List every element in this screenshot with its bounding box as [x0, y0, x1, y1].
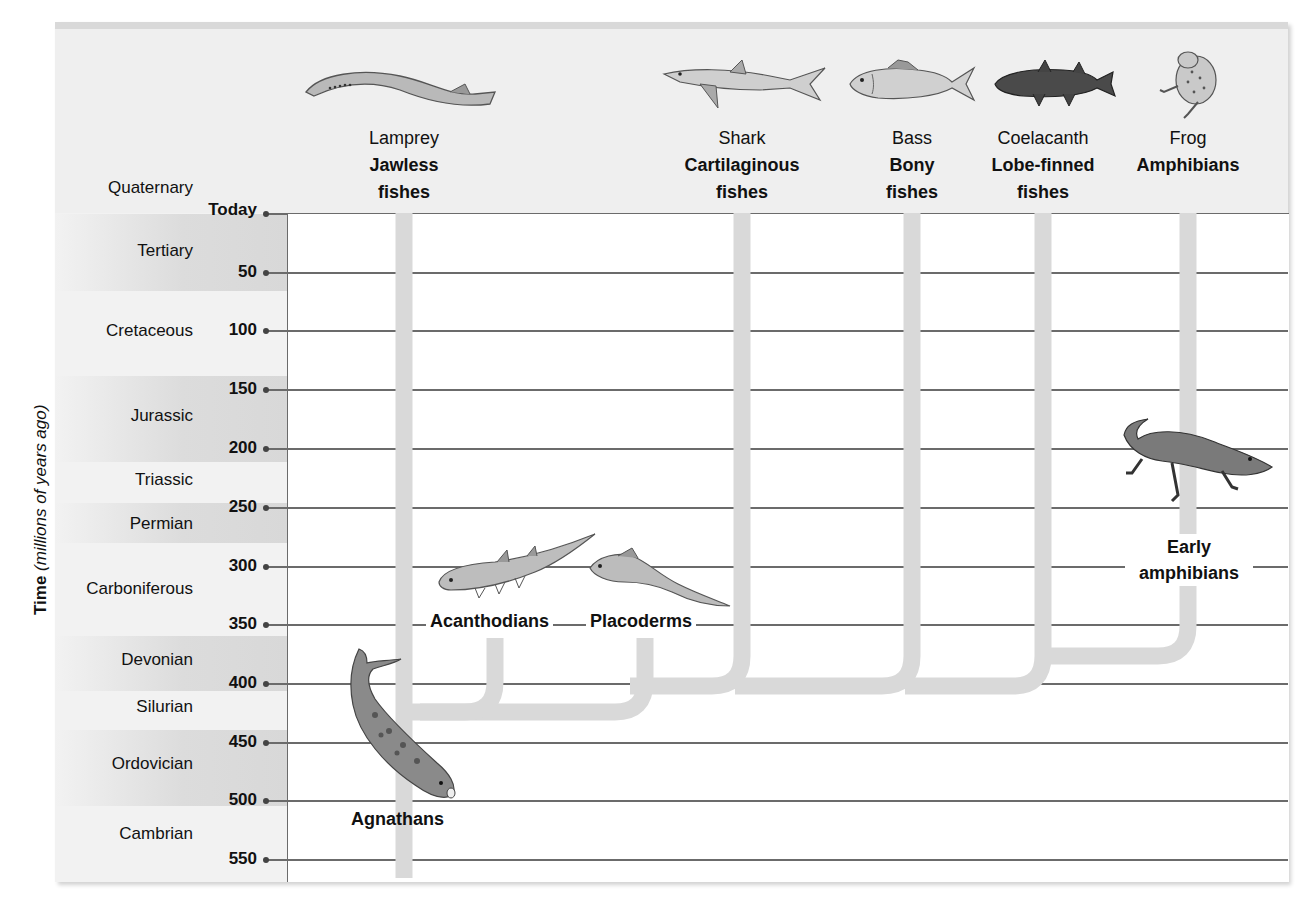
- label-acanthodians: Acanthodians: [426, 608, 553, 634]
- taxon-group-name: fishes: [652, 179, 832, 206]
- taxon-group-name: Lobe-finned: [973, 152, 1113, 179]
- taxon-group-name: fishes: [852, 179, 972, 206]
- placoderm-icon: [588, 548, 733, 610]
- taxon-group-name: Bony: [852, 152, 972, 179]
- taxon-shark: Shark Cartilaginous fishes: [652, 125, 832, 206]
- bass-icon: [848, 60, 978, 110]
- frog-icon: [1158, 48, 1228, 120]
- taxon-group-name: Cartilaginous: [652, 152, 832, 179]
- label-early-amphibians: Early amphibians: [1125, 534, 1253, 586]
- acanthodian-icon: [435, 532, 600, 602]
- taxon-common-name: Coelacanth: [973, 125, 1113, 152]
- label-early-amphibians-line1: Early: [1129, 534, 1249, 560]
- shark-icon: [660, 60, 830, 115]
- taxon-group-name: Jawless: [324, 152, 484, 179]
- label-early-amphibians-line2: amphibians: [1129, 560, 1249, 586]
- taxon-bass: Bass Bony fishes: [852, 125, 972, 206]
- taxon-common-name: Frog: [1118, 125, 1258, 152]
- lamprey-icon: [300, 62, 500, 112]
- label-agnathans: Agnathans: [347, 806, 448, 832]
- taxon-group-name: fishes: [324, 179, 484, 206]
- taxon-group-name: Amphibians: [1118, 152, 1258, 179]
- taxon-frog: Frog Amphibians: [1118, 125, 1258, 179]
- taxon-coelacanth: Coelacanth Lobe-finned fishes: [973, 125, 1113, 206]
- coelacanth-icon: [993, 58, 1118, 108]
- taxon-lamprey: Lamprey Jawless fishes: [324, 125, 484, 206]
- agnathan-icon: [345, 645, 460, 805]
- early-amphibian-icon: [1122, 415, 1277, 507]
- label-placoderms: Placoderms: [586, 608, 696, 634]
- taxon-common-name: Shark: [652, 125, 832, 152]
- taxon-common-name: Bass: [852, 125, 972, 152]
- branch-coelacanth: [905, 213, 1043, 686]
- branch-bass: [735, 213, 912, 686]
- taxon-common-name: Lamprey: [324, 125, 484, 152]
- taxon-group-name: fishes: [973, 179, 1113, 206]
